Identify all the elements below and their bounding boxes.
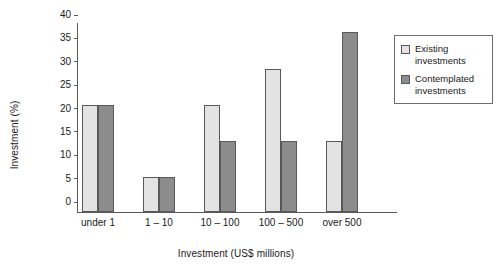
y-tick-label: 15	[60, 127, 74, 137]
y-tick-mark	[74, 61, 78, 62]
bar-chart-figure: Investment (%) 0510152025303540 under 11…	[0, 0, 501, 271]
bar[interactable]	[204, 105, 220, 212]
legend-label-contemplated: Contemplatedinvestments	[415, 73, 474, 96]
bar[interactable]	[281, 141, 297, 212]
y-tick-mark	[74, 15, 78, 16]
legend-swatch-contemplated-icon	[401, 75, 410, 84]
bar-group	[82, 25, 114, 212]
y-axis-title: Investment (%)	[1, 0, 27, 271]
y-tick-10: 10	[60, 150, 78, 160]
y-tick-label: 30	[60, 57, 74, 67]
y-tick-mark	[74, 155, 78, 156]
y-tick-40: 40	[60, 10, 78, 20]
bar-group	[265, 25, 297, 212]
y-tick-mark	[74, 202, 78, 203]
y-tick-mark	[74, 38, 78, 39]
y-tick-label: 35	[60, 33, 74, 43]
legend-item-contemplated[interactable]: Contemplatedinvestments	[401, 73, 487, 96]
y-tick-15: 15	[60, 127, 78, 137]
y-tick-label: 0	[65, 197, 74, 207]
chart-legend: Existinginvestments Contemplatedinvestme…	[394, 35, 493, 104]
bar[interactable]	[98, 105, 114, 212]
y-tick-label: 40	[60, 10, 74, 20]
bar[interactable]	[159, 177, 175, 212]
x-axis-title: Investment (US$ millions)	[78, 248, 394, 259]
x-axis-line	[77, 212, 397, 213]
legend-item-existing[interactable]: Existinginvestments	[401, 43, 487, 66]
bar-group	[204, 25, 236, 212]
y-tick-mark	[74, 85, 78, 86]
plot-area: 0510152025303540 under 11 – 1010 – 10010…	[78, 25, 394, 212]
y-tick-5: 5	[65, 174, 78, 184]
y-tick-label: 10	[60, 150, 74, 160]
y-tick-mark	[74, 178, 78, 179]
bar[interactable]	[143, 177, 159, 212]
bar-group	[326, 25, 358, 212]
y-tick-mark	[74, 131, 78, 132]
y-tick-label: 5	[65, 174, 74, 184]
y-tick-label: 25	[60, 80, 74, 90]
y-tick-25: 25	[60, 80, 78, 90]
bar[interactable]	[342, 32, 358, 212]
legend-swatch-existing-icon	[401, 45, 410, 54]
bar[interactable]	[220, 141, 236, 212]
bar[interactable]	[82, 105, 98, 212]
legend-label-existing: Existinginvestments	[415, 43, 466, 66]
y-tick-mark	[74, 108, 78, 109]
y-tick-label: 20	[60, 104, 74, 114]
bar[interactable]	[326, 141, 342, 212]
x-tick-label: over 500	[297, 217, 387, 228]
bar-group	[143, 25, 175, 212]
bar[interactable]	[265, 69, 281, 212]
y-tick-30: 30	[60, 57, 78, 67]
y-tick-0: 0	[65, 197, 78, 207]
y-tick-20: 20	[60, 104, 78, 114]
y-tick-35: 35	[60, 33, 78, 43]
